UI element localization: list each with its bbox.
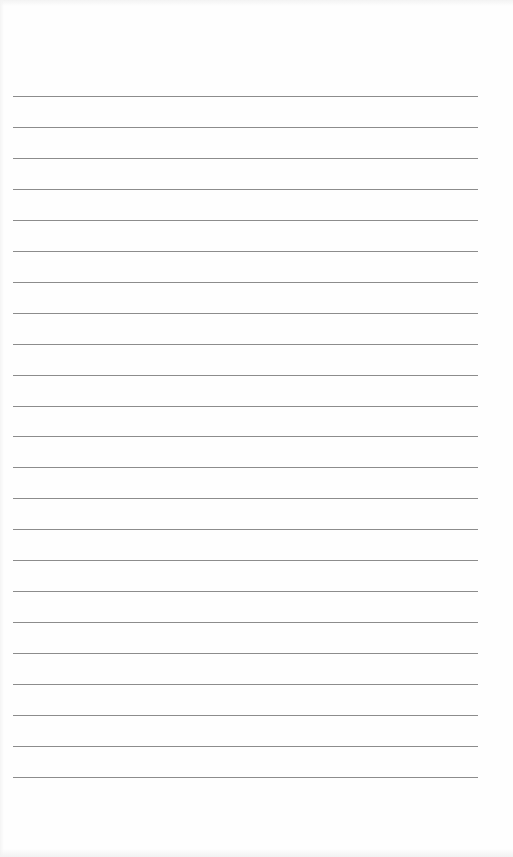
ruled-line (13, 158, 478, 159)
ruled-line (13, 529, 478, 530)
ruled-line (13, 653, 478, 654)
ruled-line (13, 777, 478, 778)
ruled-line (13, 282, 478, 283)
ruled-line (13, 127, 478, 128)
ruled-line (13, 746, 478, 747)
notepaper-page (0, 0, 513, 857)
ruled-line (13, 220, 478, 221)
ruled-line (13, 436, 478, 437)
ruled-line (13, 406, 478, 407)
ruled-line (13, 375, 478, 376)
ruled-line (13, 715, 478, 716)
ruled-line (13, 96, 478, 97)
ruled-line (13, 251, 478, 252)
ruled-line (13, 498, 478, 499)
ruled-line (13, 189, 478, 190)
ruled-line (13, 591, 478, 592)
ruled-line (13, 684, 478, 685)
ruled-line (13, 313, 478, 314)
ruled-line (13, 622, 478, 623)
ruled-line (13, 560, 478, 561)
ruled-line (13, 467, 478, 468)
ruled-line (13, 344, 478, 345)
ruled-lines (0, 0, 513, 857)
